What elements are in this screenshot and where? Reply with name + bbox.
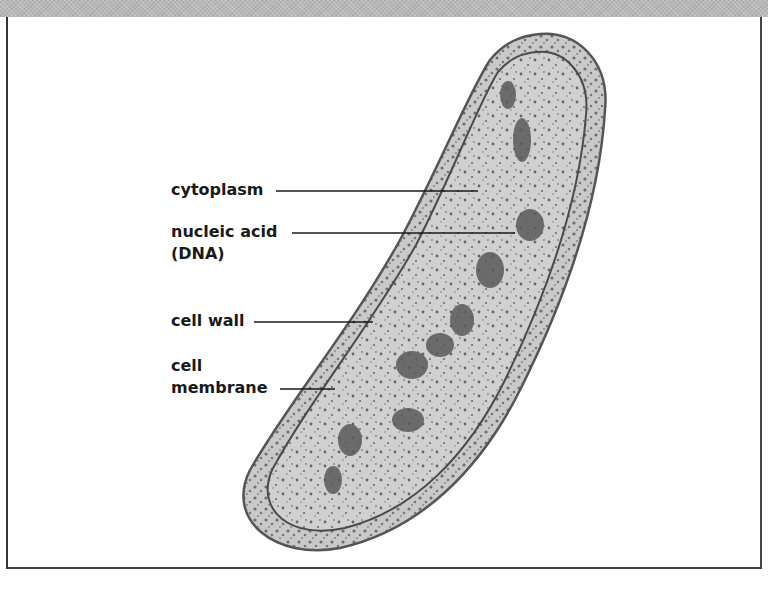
label-nucleic-acid: nucleic acid [171,222,277,242]
label-dna: (DNA) [171,244,225,264]
label-cytoplasm: cytoplasm [171,180,263,200]
label-cell: cell [171,356,202,376]
label-membrane: membrane [171,378,268,398]
label-cell-wall: cell wall [171,311,244,331]
bacterium-diagram [0,0,768,596]
